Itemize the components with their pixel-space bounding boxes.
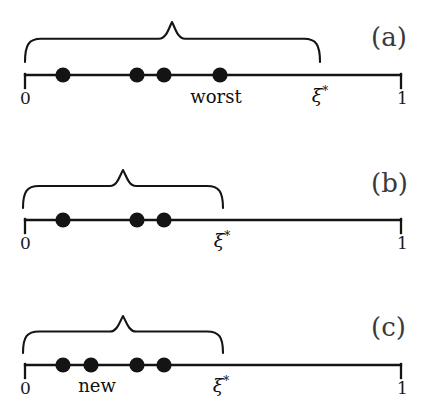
sample-point-b-2 (156, 212, 171, 227)
axis-label-one-b: 1 (397, 233, 408, 253)
xi-star-label-a: ξ* (312, 84, 328, 106)
axis-label-zero-c: 0 (20, 378, 31, 398)
axis-label-one-c: 1 (397, 378, 408, 398)
annotation-new-c: new (78, 375, 116, 396)
panel-c (23, 316, 401, 378)
annotation-worst-a: worst (190, 86, 241, 107)
sample-point-a-2 (156, 67, 171, 82)
figure-canvas (0, 0, 435, 414)
sample-point-c-1 (83, 357, 98, 372)
sample-point-c-3 (156, 357, 171, 372)
sample-point-c-2 (129, 357, 144, 372)
panel-label-a: (a) (371, 22, 407, 52)
axis-label-zero-a: 0 (20, 88, 31, 108)
axis-label-zero-b: 0 (20, 233, 31, 253)
sample-point-b-0 (55, 212, 70, 227)
sample-point-a-1 (129, 67, 144, 82)
panel-label-c: (c) (371, 312, 406, 342)
sample-point-c-0 (55, 357, 70, 372)
sample-point-a-0 (55, 67, 70, 82)
panel-a (25, 22, 401, 88)
axis-label-one-a: 1 (397, 88, 408, 108)
figure-panels: (a)01worstξ*(b)01ξ*(c)01newξ* (0, 0, 435, 414)
panel-b (23, 170, 401, 233)
sample-point-b-1 (129, 212, 144, 227)
sample-point-a-3 (212, 67, 227, 82)
xi-star-label-b: ξ* (214, 229, 230, 251)
xi-star-label-c: ξ* (213, 374, 229, 396)
brace-b (23, 170, 223, 208)
brace-c (23, 316, 223, 353)
brace-a (25, 22, 320, 62)
panel-label-b: (b) (371, 168, 408, 198)
